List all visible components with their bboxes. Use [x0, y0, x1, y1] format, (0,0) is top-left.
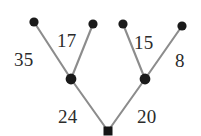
node-leaf-1	[29, 17, 38, 26]
node-leaf-4	[177, 21, 186, 30]
node-internal-left	[66, 74, 77, 85]
edge-label-17: 17	[57, 31, 76, 50]
edge-label-20: 20	[137, 107, 156, 126]
tree-diagram-canvas: 35 17 15 8 24 20	[0, 0, 201, 136]
edge-label-24: 24	[58, 107, 77, 126]
edge-label-15: 15	[134, 33, 153, 52]
edge-label-35: 35	[14, 50, 33, 69]
node-leaf-2	[88, 19, 97, 28]
node-root	[104, 127, 113, 136]
node-leaf-3	[118, 19, 127, 28]
node-internal-right	[140, 74, 151, 85]
node-group	[29, 17, 186, 135]
edge-label-8: 8	[175, 51, 185, 70]
